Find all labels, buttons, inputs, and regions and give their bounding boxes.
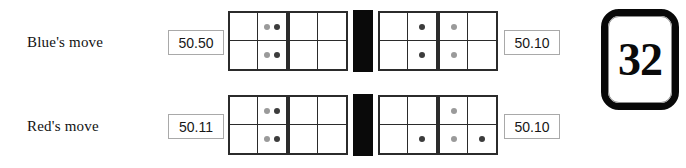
cell-top-right[interactable]: [258, 97, 286, 125]
cell-bottom-right[interactable]: [468, 41, 496, 69]
grid-red-3[interactable]: [378, 95, 438, 155]
grid-blue-3[interactable]: [378, 11, 438, 71]
cell-bottom-left[interactable]: [440, 41, 468, 69]
dot-light-icon: [451, 24, 457, 30]
value-box-red-right[interactable]: 50.10: [504, 114, 560, 139]
value-box-blue-left[interactable]: 50.50: [168, 30, 224, 55]
cell-bottom-left[interactable]: [380, 41, 408, 69]
dot-light-icon: [451, 108, 457, 114]
dot-light-icon: [264, 52, 270, 58]
cell-bottom-right[interactable]: [408, 125, 436, 153]
cell-top-left[interactable]: [440, 13, 468, 41]
number-card-value: 32: [618, 37, 662, 83]
cell-top-left[interactable]: [230, 97, 258, 125]
grid-blue-4[interactable]: [438, 11, 498, 71]
cell-top-left[interactable]: [380, 13, 408, 41]
cell-bottom-left[interactable]: [230, 125, 258, 153]
grid-blue-2[interactable]: [288, 11, 348, 71]
move-label-blue: Blue's move: [27, 34, 162, 51]
cell-top-right[interactable]: [318, 13, 346, 41]
dot-light-icon: [264, 108, 270, 114]
cell-bottom-left[interactable]: [290, 125, 318, 153]
cell-top-right[interactable]: [468, 13, 496, 41]
dot-light-icon: [451, 136, 457, 142]
cell-top-right[interactable]: [468, 97, 496, 125]
cell-bottom-right[interactable]: [318, 41, 346, 69]
cell-top-right[interactable]: [318, 97, 346, 125]
grid-blue-1[interactable]: [228, 11, 288, 71]
dot-dark-icon: [419, 136, 425, 142]
grid-red-1[interactable]: [228, 95, 288, 155]
move-row-red: Red's move 50.11 50.10: [0, 84, 590, 168]
cell-bottom-left[interactable]: [230, 41, 258, 69]
value-box-blue-right[interactable]: 50.10: [504, 30, 560, 55]
move-row-blue: Blue's move 50.50 50.10: [0, 0, 590, 84]
cell-bottom-right[interactable]: [258, 125, 286, 153]
cell-bottom-right[interactable]: [318, 125, 346, 153]
number-card-inner-border: 32: [608, 16, 672, 103]
dot-dark-icon: [419, 24, 425, 30]
dot-light-icon: [264, 136, 270, 142]
cell-bottom-left[interactable]: [290, 41, 318, 69]
dot-dark-icon: [479, 136, 485, 142]
cell-top-right[interactable]: [408, 13, 436, 41]
move-label-red: Red's move: [27, 118, 162, 135]
dot-dark-icon: [274, 108, 280, 114]
cell-bottom-left[interactable]: [380, 125, 408, 153]
cell-bottom-left[interactable]: [440, 125, 468, 153]
cell-top-right[interactable]: [258, 13, 286, 41]
dot-dark-icon: [274, 52, 280, 58]
cell-bottom-right[interactable]: [258, 41, 286, 69]
dot-light-icon: [451, 52, 457, 58]
separator-bar-blue: [353, 10, 373, 72]
cell-top-left[interactable]: [230, 13, 258, 41]
dot-dark-icon: [274, 136, 280, 142]
grid-red-4[interactable]: [438, 95, 498, 155]
dot-dark-icon: [419, 52, 425, 58]
cell-top-left[interactable]: [440, 97, 468, 125]
cell-top-right[interactable]: [408, 97, 436, 125]
value-box-red-left[interactable]: 50.11: [168, 114, 224, 139]
number-card[interactable]: 32: [601, 9, 679, 110]
cell-top-left[interactable]: [290, 13, 318, 41]
cell-top-left[interactable]: [290, 97, 318, 125]
cell-top-left[interactable]: [380, 97, 408, 125]
cell-bottom-right[interactable]: [408, 41, 436, 69]
cell-bottom-right[interactable]: [468, 125, 496, 153]
grid-red-2[interactable]: [288, 95, 348, 155]
dot-light-icon: [264, 24, 270, 30]
dot-dark-icon: [274, 24, 280, 30]
separator-bar-red: [353, 94, 373, 156]
